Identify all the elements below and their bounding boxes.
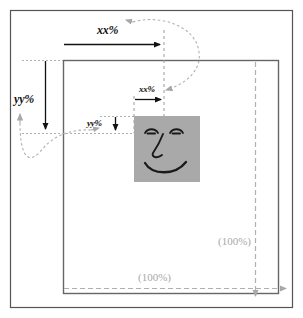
yy-percent-inner-label: yy% (87, 118, 102, 128)
diagram-canvas: xx% xx% yy% yy% (100%) (100%) (0, 0, 303, 318)
xx-percent-inner-label: xx% (139, 84, 155, 94)
container-width-label: (100%) (138, 271, 171, 283)
yy-percent-left-label: yy% (14, 92, 34, 107)
xx-percent-top-label: xx% (97, 23, 118, 38)
face-tile (134, 116, 200, 182)
container-height-label: (100%) (218, 235, 251, 247)
xx-percent-mapping-curve (126, 20, 199, 90)
